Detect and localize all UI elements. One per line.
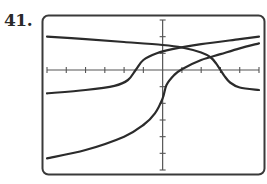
curves: [47, 37, 259, 159]
curve-3-increasing-origin: [47, 43, 259, 158]
graph: [0, 0, 267, 184]
curve-1-decreasing: [47, 37, 259, 90]
axes: [47, 20, 259, 170]
